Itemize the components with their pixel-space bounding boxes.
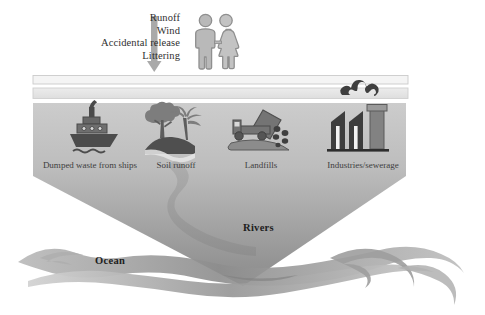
zone-label-rivers: Rivers: [243, 222, 274, 233]
input-line-littering: Littering: [60, 50, 180, 63]
source-label-landfills: Landfills: [226, 160, 296, 170]
input-line-wind: Wind: [60, 25, 180, 38]
pollution-pathway-figure: Runoff Wind Accidental release Littering…: [0, 0, 485, 315]
people-pair-icon: [196, 14, 239, 69]
source-label-industries: Industries/sewerage: [318, 160, 408, 170]
upper-thin-band: [33, 76, 408, 85]
lower-thin-band: [33, 88, 408, 99]
pollution-inputs-list: Runoff Wind Accidental release Littering: [60, 12, 180, 62]
zone-label-ocean: Ocean: [95, 255, 125, 266]
input-line-runoff: Runoff: [60, 12, 180, 25]
source-label-soil: Soil runoff: [137, 160, 215, 170]
source-label-ships: Dumped waste from ships: [42, 160, 138, 170]
input-line-accidental-release: Accidental release: [60, 37, 180, 50]
